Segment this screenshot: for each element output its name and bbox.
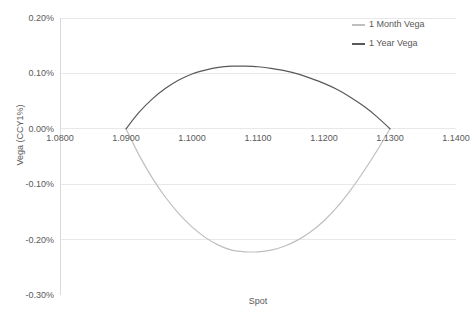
y-axis-tick-label: -0.20%: [6, 235, 54, 245]
y-axis-tick-label: 0.10%: [6, 68, 54, 78]
x-axis-tick-label: 1.0800: [30, 133, 90, 143]
y-axis-tick-label: 0.20%: [6, 13, 54, 23]
x-axis-tick-label: 1.1300: [360, 133, 420, 143]
y-axis-tick-label: -0.10%: [6, 179, 54, 189]
x-axis-tick-label: 1.1400: [426, 133, 471, 143]
y-axis-tick-label: -0.30%: [6, 290, 54, 300]
x-axis-title: Spot: [60, 296, 456, 306]
x-axis-tick-label: 1.0900: [96, 133, 156, 143]
x-axis-tick-labels: 1.08001.09001.10001.11001.12001.13001.14…: [60, 0, 456, 320]
legend-item: 1 Year Vega: [352, 39, 425, 48]
legend-item: 1 Month Vega: [352, 20, 425, 29]
legend-color-swatch: [352, 24, 365, 26]
x-axis-tick-label: 1.1000: [162, 133, 222, 143]
legend-label: 1 Year Vega: [369, 39, 418, 48]
chart-legend: 1 Month Vega1 Year Vega: [352, 20, 425, 48]
x-axis-tick-label: 1.1100: [228, 133, 288, 143]
x-axis-tick-label: 1.1200: [294, 133, 354, 143]
legend-label: 1 Month Vega: [369, 20, 425, 29]
legend-color-swatch: [352, 43, 365, 45]
vega-line-chart: Vega (CCY1%) 0.20%0.10%0.00%-0.10%-0.20%…: [0, 0, 471, 320]
